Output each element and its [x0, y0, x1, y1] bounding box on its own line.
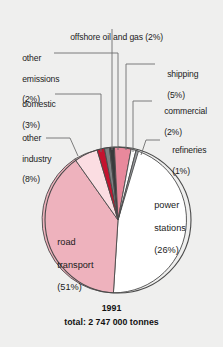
- leader-line-commercial: [133, 101, 152, 152]
- road-transport-line3: (51%): [57, 282, 82, 292]
- caption-year: 1991: [0, 303, 223, 313]
- callout-shipping-line1: shipping: [167, 69, 198, 79]
- callout-domestic-line1: domestic: [22, 99, 56, 109]
- road-transport-line1: road: [57, 237, 75, 247]
- callout-other-industry-line3: (8%): [22, 174, 40, 184]
- power-stations-line2: stations: [154, 223, 186, 233]
- callout-other-industry-line1: other: [22, 133, 41, 143]
- leader-line-shipping: [126, 64, 155, 150]
- callout-label-offshore-oil-and-gas: offshore oil and gas (2%): [46, 22, 178, 53]
- road-transport-line2: transport: [57, 260, 93, 270]
- caption-total: total: 2 747 000 tonnes: [0, 317, 223, 327]
- callout-refineries-line2: (1%): [172, 166, 190, 176]
- callout-commercial-line1: commercial: [164, 106, 207, 116]
- callout-label-other-industry: other industry (8%): [13, 123, 51, 195]
- chart-figure: offshore oil and gas (2%) other emission…: [0, 0, 223, 347]
- power-stations-line3: (26%): [154, 245, 179, 255]
- callout-other-industry-line2: industry: [22, 154, 51, 164]
- leader-line-domestic: [55, 94, 101, 152]
- slice-label-road-transport: road transport (51%): [47, 226, 93, 304]
- callout-offshore-text: offshore oil and gas (2%): [70, 32, 163, 42]
- leader-line-other-emissions: [54, 53, 118, 150]
- power-stations-line1: power: [154, 200, 179, 210]
- callout-other-emissions-line2: emissions: [22, 74, 59, 84]
- slice-label-power-stations: power stations (26%): [144, 189, 186, 267]
- callout-label-refineries: refineries (1%): [163, 135, 207, 186]
- callout-other-emissions-line1: other: [22, 53, 41, 63]
- callout-refineries-line1: refineries: [172, 145, 206, 155]
